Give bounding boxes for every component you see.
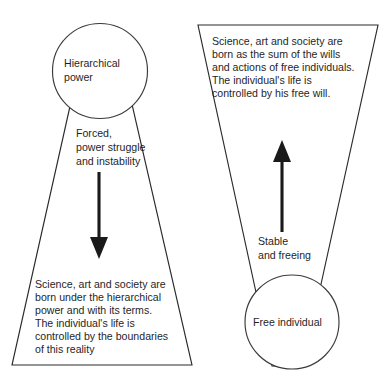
left-body-line6: of this reality <box>35 343 95 355</box>
left-flow-label-line3: and instability <box>76 155 141 167</box>
right-body-line4: The individual's life is <box>212 74 312 86</box>
hierarchical-power-label-line1: Hierarchical <box>64 57 120 69</box>
left-flow-label-line1: Forced, <box>76 127 112 139</box>
left-body-line1: Science, art and society are <box>35 278 166 290</box>
right-body-line5: controlled by his free will. <box>212 87 330 99</box>
left-flow-label-line2: power struggle <box>76 141 146 153</box>
left-body-line4: The individual's life is <box>35 317 135 329</box>
right-flow-label-line2: and freeing <box>258 249 311 261</box>
right-body-line2: born as the sum of the wills <box>212 48 340 60</box>
left-body-line3: power and with its terms. <box>35 304 152 316</box>
right-body-line1: Science, art and society are <box>212 35 343 47</box>
diagram-canvas: Hierarchical power Forced, power struggl… <box>0 0 389 389</box>
right-flow-label-line1: Stable <box>258 235 288 247</box>
left-body-line2: born under the hierarchical <box>35 291 161 303</box>
free-individual-label: Free individual <box>253 316 322 328</box>
hierarchical-power-label-line2: power <box>64 71 93 83</box>
left-body-line5: controlled by the boundaries <box>35 330 168 342</box>
diagram-root: Hierarchical power Forced, power struggl… <box>0 0 389 389</box>
right-body-line3: and actions of free individuals. <box>212 61 355 73</box>
